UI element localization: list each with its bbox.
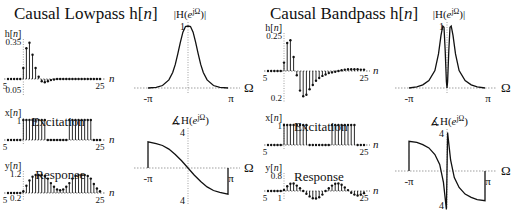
y-tick-label: 0.05: [6, 85, 22, 95]
n-axis-label: n: [109, 72, 115, 84]
axis-label: x[n]: [5, 107, 22, 118]
x-tick-label: π: [228, 92, 234, 104]
stem-point: [308, 88, 310, 90]
stem-point: [315, 197, 317, 199]
stem-point: [296, 74, 298, 76]
stem-point: [286, 42, 288, 44]
stem-point: [331, 184, 333, 186]
stem-point: [318, 77, 320, 79]
stem-point: [289, 124, 291, 126]
lowpass_mag-plot: Ω-ππ1|H(ejΩ)|: [134, 7, 254, 104]
stem-point: [270, 70, 272, 72]
stem-point: [321, 75, 323, 77]
stem-point: [10, 139, 12, 141]
stem-point: [50, 79, 52, 81]
omega-axis-label: Ω: [244, 80, 254, 95]
stem-point: [283, 124, 285, 126]
stem-point: [270, 190, 272, 192]
lowpass_y-plot: n5251.20.2y[n]Response: [3, 160, 115, 205]
stem-point: [315, 80, 317, 82]
stem-point: [344, 68, 346, 70]
stem-point: [65, 139, 67, 141]
bandpass_mag-plot: Ω-ππ1|H(ejΩ)|: [395, 7, 511, 104]
axis-label: h[n]: [265, 22, 282, 33]
stem-point: [350, 192, 352, 194]
stem-point: [96, 187, 98, 189]
stem-point: [34, 67, 36, 69]
stem-point: [22, 119, 24, 121]
stem-point: [28, 119, 30, 121]
stem-point: [347, 189, 349, 191]
stem-point: [65, 186, 67, 188]
stem-point: [283, 61, 285, 63]
stem-point: [74, 78, 76, 80]
stem-point: [280, 190, 282, 192]
stem-point: [356, 68, 358, 70]
bandpass_x-plot: n5251x[n]Excitation: [263, 112, 379, 157]
lowpass_h-plot: n5250.350.05h[n]: [3, 28, 115, 95]
stem-point: [87, 175, 89, 177]
y-tick-label: 1: [278, 193, 283, 203]
y-tick-label: 1: [439, 21, 444, 32]
y-tick-label: 0.2: [10, 193, 21, 203]
stem-point: [353, 124, 355, 126]
stem-point: [276, 190, 278, 192]
n-axis-label: n: [373, 64, 379, 76]
stem-point: [47, 139, 49, 141]
stem-point: [47, 80, 49, 82]
stem-point: [334, 71, 336, 73]
stem-point: [324, 144, 326, 146]
x-tick-label: 25: [360, 193, 370, 203]
y-tick-label: 4: [180, 127, 185, 138]
stem-point: [321, 193, 323, 195]
stem-point: [50, 139, 52, 141]
x-tick-label: 25: [96, 142, 106, 152]
stem-point: [302, 95, 304, 97]
x-tick-label: 5: [263, 73, 268, 83]
bandpass_phase-plot: Ω-ππ44∡H(ejΩ): [395, 114, 511, 211]
stem-point: [350, 124, 352, 126]
stem-point: [44, 81, 46, 83]
stem-point: [312, 84, 314, 86]
stem-point: [302, 190, 304, 192]
stem-point: [292, 56, 294, 58]
stem-point: [22, 67, 24, 69]
stem-point: [296, 184, 298, 186]
axis-label: |H(ejΩ)|: [433, 7, 465, 21]
n-axis-label: n: [109, 133, 115, 145]
stem-point: [356, 194, 358, 196]
stem-point: [65, 78, 67, 80]
stem-point: [308, 144, 310, 146]
n-axis-label: n: [373, 184, 379, 196]
lowpass_phase-plot: Ω-ππ44∡H(ejΩ): [134, 113, 254, 206]
axis-label: y[n]: [265, 162, 282, 173]
axis-label: ∡H(ejΩ): [171, 113, 209, 127]
stem-point: [280, 70, 282, 72]
stem-point: [93, 139, 95, 141]
stem-point: [90, 119, 92, 121]
stem-point: [99, 78, 101, 80]
stem-point: [56, 188, 58, 190]
bandpass_y-plot: n5250.81y[n]Response: [263, 162, 379, 203]
stem-point: [53, 139, 55, 141]
stem-point: [286, 185, 288, 187]
n-axis-label: n: [373, 138, 379, 150]
stem-point: [273, 190, 275, 192]
stem-point: [360, 144, 362, 146]
x-tick-label: -π: [404, 92, 414, 104]
stem-point: [19, 139, 21, 141]
stem-point: [305, 193, 307, 195]
x-tick-label: 5: [3, 195, 8, 205]
stem-point: [276, 70, 278, 72]
x-tick-label: -π: [143, 92, 153, 104]
stem-point: [62, 78, 64, 80]
stem-point: [321, 144, 323, 146]
omega-axis-label: Ω: [501, 163, 511, 178]
stem-point: [93, 183, 95, 185]
stem-point: [324, 190, 326, 192]
stem-point: [77, 78, 79, 80]
stem-point: [28, 179, 30, 181]
plot-caption: Excitation: [294, 119, 348, 134]
stem-point: [356, 144, 358, 146]
stem-point: [83, 78, 85, 80]
